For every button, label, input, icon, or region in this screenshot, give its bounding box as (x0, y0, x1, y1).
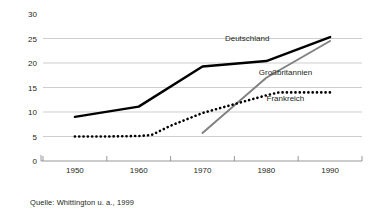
series-label-grobritannien: Großbritannien (259, 68, 312, 77)
y-axis-tick-label: 30 (28, 10, 37, 19)
y-axis-tick-label: 20 (28, 59, 37, 68)
series-label-frankreich: Frankreich (267, 94, 305, 103)
y-axis-tick-label: 0 (33, 157, 38, 166)
chart-container: 051015202530 19501960197019801990 Deutsc… (0, 0, 378, 224)
y-axis-tick-label: 15 (28, 84, 37, 93)
x-axis-tick-label: 1990 (321, 166, 339, 175)
x-axis-tick-labels: 19501960197019801990 (66, 166, 340, 175)
x-axis-tick-label: 1960 (130, 166, 148, 175)
x-axis-tick-label: 1950 (66, 166, 84, 175)
y-axis-tick-labels: 051015202530 (28, 10, 37, 166)
gridlines (43, 39, 362, 137)
series-line-grobritannien (203, 41, 331, 133)
x-axis-tickmarks (43, 156, 362, 161)
source-caption: Quelle: Whittington u. a., 1999 (30, 198, 134, 207)
line-chart: 051015202530 19501960197019801990 Deutsc… (0, 0, 378, 224)
y-axis-tick-label: 25 (28, 35, 37, 44)
series-group (75, 37, 330, 136)
x-axis-tick-label: 1980 (257, 166, 275, 175)
series-label-deutschland: Deutschland (225, 34, 269, 43)
y-axis-tick-label: 10 (28, 108, 37, 117)
x-axis-tick-label: 1970 (194, 166, 212, 175)
y-axis-tick-label: 5 (33, 133, 38, 142)
